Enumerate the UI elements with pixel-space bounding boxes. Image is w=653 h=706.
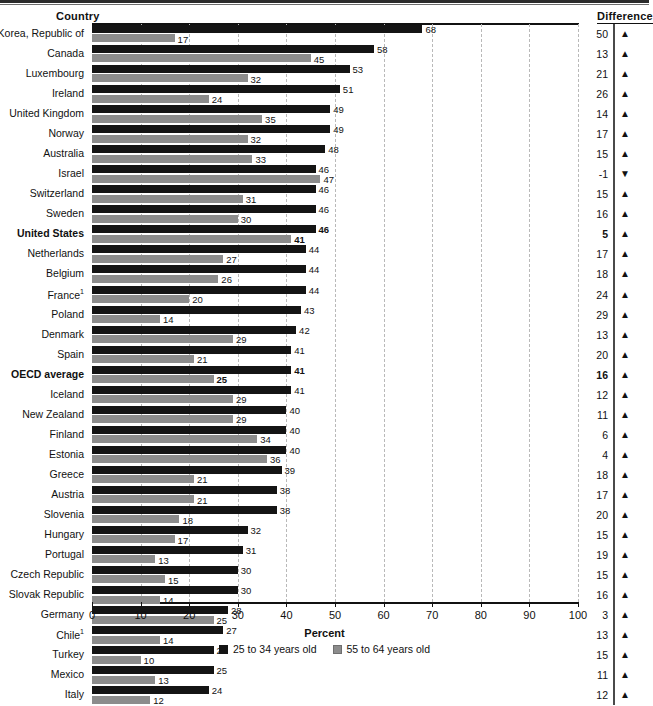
chart-row: Luxembourg533221▲ xyxy=(0,64,649,84)
up-arrow-icon: ▲ xyxy=(618,48,632,59)
bar-value-young: 41 xyxy=(294,345,305,356)
bar-old xyxy=(92,215,238,223)
up-arrow-icon: ▲ xyxy=(618,289,632,300)
bar-value-young: 30 xyxy=(241,565,252,576)
chart-row: Canada584513▲ xyxy=(0,44,649,64)
legend-swatch-icon xyxy=(333,645,342,654)
chart-row: Korea, Republic of681750▲ xyxy=(0,24,649,44)
bar-value-young: 44 xyxy=(309,264,320,275)
chart-row: Switzerland463115▲ xyxy=(0,184,649,204)
bar-young xyxy=(92,245,306,253)
difference-divider xyxy=(613,64,615,84)
bar-old xyxy=(92,115,262,123)
difference-value: 14 xyxy=(573,108,608,120)
chart-row: Portugal311319▲ xyxy=(0,545,649,565)
tick-mark-90 xyxy=(529,602,530,607)
legend-label: 25 to 34 years old xyxy=(233,643,316,655)
difference-divider xyxy=(613,24,615,44)
chart-row: Sweden463016▲ xyxy=(0,204,649,224)
tick-label-80: 80 xyxy=(461,609,501,621)
column-header-difference: Difference xyxy=(597,10,653,24)
up-arrow-icon: ▲ xyxy=(618,248,632,259)
bar-old xyxy=(92,656,141,664)
up-arrow-icon: ▲ xyxy=(618,28,632,39)
up-arrow-icon: ▲ xyxy=(618,68,632,79)
bar-value-young: 49 xyxy=(333,104,344,115)
difference-divider xyxy=(613,264,615,284)
bar-value-old: 30 xyxy=(241,214,252,225)
bar-old xyxy=(92,155,252,163)
up-arrow-icon: ▲ xyxy=(618,669,632,680)
bar-value-old: 41 xyxy=(294,234,305,245)
chart-row: Iceland412912▲ xyxy=(0,385,649,405)
bar-value-old: 17 xyxy=(178,34,189,45)
country-label: Mexico xyxy=(0,668,84,680)
bar-young xyxy=(92,526,248,534)
bar-value-old: 13 xyxy=(158,675,169,686)
chart-row: Norway493217▲ xyxy=(0,124,649,144)
bar-young xyxy=(92,546,243,554)
x-axis-title: Percent xyxy=(0,627,649,639)
country-label: Estonia xyxy=(0,448,84,460)
tick-mark-20 xyxy=(189,602,190,607)
difference-value: 15 xyxy=(573,188,608,200)
bar-old xyxy=(92,235,291,243)
up-arrow-icon: ▲ xyxy=(618,489,632,500)
difference-value: 26 xyxy=(573,88,608,100)
up-arrow-icon: ▲ xyxy=(618,349,632,360)
tick-label-10: 10 xyxy=(121,609,161,621)
country-label: United Kingdom xyxy=(0,107,84,119)
difference-value: 15 xyxy=(573,148,608,160)
difference-value: 17 xyxy=(573,489,608,501)
bar-value-old: 45 xyxy=(314,54,325,65)
bar-value-old: 10 xyxy=(144,655,155,666)
chart-row: Czech Republic301515▲ xyxy=(0,565,649,585)
difference-value: 17 xyxy=(573,128,608,140)
difference-divider xyxy=(613,565,615,585)
country-label: United States xyxy=(0,227,84,239)
difference-value: 13 xyxy=(573,329,608,341)
difference-value: 5 xyxy=(573,228,608,240)
top-border-rule xyxy=(0,0,649,3)
up-arrow-icon: ▲ xyxy=(618,88,632,99)
bar-old xyxy=(92,375,214,383)
country-label: Australia xyxy=(0,147,84,159)
bar-value-young: 43 xyxy=(304,305,315,316)
legend-item: 25 to 34 years old xyxy=(219,643,316,655)
difference-value: 11 xyxy=(573,409,608,421)
bar-old xyxy=(92,295,189,303)
bar-value-young: 40 xyxy=(289,405,300,416)
tick-mark-10 xyxy=(141,602,142,607)
bar-value-young: 32 xyxy=(251,525,262,536)
bar-value-old: 26 xyxy=(221,274,232,285)
bar-young xyxy=(92,666,214,674)
bar-value-old: 14 xyxy=(163,595,174,606)
bar-value-young: 68 xyxy=(425,24,436,35)
bar-value-young: 46 xyxy=(319,184,330,195)
difference-divider xyxy=(613,285,615,305)
bar-young xyxy=(92,265,306,273)
difference-value: 20 xyxy=(573,349,608,361)
bar-old xyxy=(92,676,155,684)
bar-young xyxy=(92,185,316,193)
country-label: Switzerland xyxy=(0,187,84,199)
country-label: Hungary xyxy=(0,528,84,540)
up-arrow-icon: ▲ xyxy=(618,148,632,159)
bar-value-young: 41 xyxy=(294,385,305,396)
chart-row: Israel4647-1▼ xyxy=(0,164,649,184)
difference-value: 6 xyxy=(573,429,608,441)
bar-value-old: 31 xyxy=(246,194,257,205)
chart-row: Australia483315▲ xyxy=(0,144,649,164)
up-arrow-icon: ▲ xyxy=(618,208,632,219)
bar-young xyxy=(92,346,291,354)
difference-value: 29 xyxy=(573,309,608,321)
bar-value-old: 34 xyxy=(260,434,271,445)
difference-value: 18 xyxy=(573,268,608,280)
up-arrow-icon: ▲ xyxy=(618,429,632,440)
bar-value-young: 53 xyxy=(353,64,364,75)
up-arrow-icon: ▲ xyxy=(618,529,632,540)
bar-young xyxy=(92,25,422,33)
top-border-rule-thin xyxy=(0,4,649,5)
bar-old xyxy=(92,555,155,563)
bar-old xyxy=(92,275,218,283)
